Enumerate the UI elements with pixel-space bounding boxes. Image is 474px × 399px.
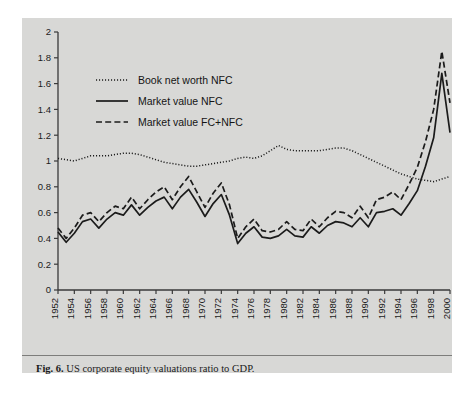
x-tick-label: 1952 (49, 298, 60, 319)
x-tick-label: 1964 (147, 298, 158, 319)
x-tick-label: 1984 (310, 298, 321, 319)
x-tick-label: 1978 (261, 298, 272, 319)
figure-label: Fig. 6. (36, 363, 64, 374)
x-tick-label: 1972 (212, 298, 223, 319)
y-tick-label: 1 (46, 155, 51, 166)
x-tick-label: 1970 (196, 298, 207, 319)
x-tick-label: 1994 (392, 298, 403, 319)
y-tick-label: 2 (46, 26, 51, 37)
y-tick-label: 1.6 (38, 78, 51, 89)
y-tick-label: 0.4 (38, 233, 51, 244)
x-tick-label: 1968 (180, 298, 191, 319)
x-tick-label: 1958 (98, 298, 109, 319)
y-tick-label: 1.8 (38, 52, 51, 63)
legend-label-0: Book net worth NFC (138, 74, 233, 86)
x-tick-label: 1990 (359, 298, 370, 319)
series-line-0 (58, 146, 450, 182)
x-tick-label: 1998 (425, 298, 436, 319)
x-tick-label: 1976 (245, 298, 256, 319)
legend-label-2: Market value FC+NFC (138, 116, 243, 128)
x-tick-label: 1986 (327, 298, 338, 319)
legend-label-1: Market value NFC (138, 95, 223, 107)
y-tick-label: 0.2 (38, 259, 51, 270)
chart-plot-area: 00.20.40.60.811.21.41.61.821952195419561… (22, 18, 452, 336)
x-tick-label: 1960 (114, 298, 125, 319)
x-tick-label: 1962 (131, 298, 142, 319)
x-tick-label: 1980 (278, 298, 289, 319)
x-tick-label: 1956 (82, 298, 93, 319)
y-tick-label: 1.2 (38, 130, 51, 141)
y-tick-label: 0.6 (38, 207, 51, 218)
x-tick-label: 2000 (441, 298, 452, 319)
figure-caption-text: US corporate equity valuations ratio to … (66, 363, 254, 374)
figure-caption: Fig. 6. US corporate equity valuations r… (36, 363, 444, 374)
x-tick-label: 1982 (294, 298, 305, 319)
series-group (58, 51, 450, 243)
y-tick-label: 1.4 (38, 104, 51, 115)
chart-legend: Book net worth NFCMarket value NFCMarket… (96, 74, 243, 128)
x-tick-label: 1966 (163, 298, 174, 319)
caption-separator (22, 355, 452, 356)
y-tick-label: 0.8 (38, 181, 51, 192)
y-tick-label: 0 (46, 284, 51, 295)
x-tick-label: 1974 (229, 298, 240, 319)
chart-svg: 00.20.40.60.811.21.41.61.821952195419561… (22, 18, 452, 336)
x-tick-label: 1996 (408, 298, 419, 319)
series-line-2 (58, 51, 450, 238)
figure-container: 00.20.40.60.811.21.41.61.821952195419561… (22, 18, 452, 373)
axes-group: 00.20.40.60.811.21.41.61.821952195419561… (38, 26, 452, 319)
series-line-1 (58, 73, 450, 243)
x-tick-label: 1988 (343, 298, 354, 319)
x-tick-label: 1954 (65, 298, 76, 319)
x-tick-label: 1992 (376, 298, 387, 319)
